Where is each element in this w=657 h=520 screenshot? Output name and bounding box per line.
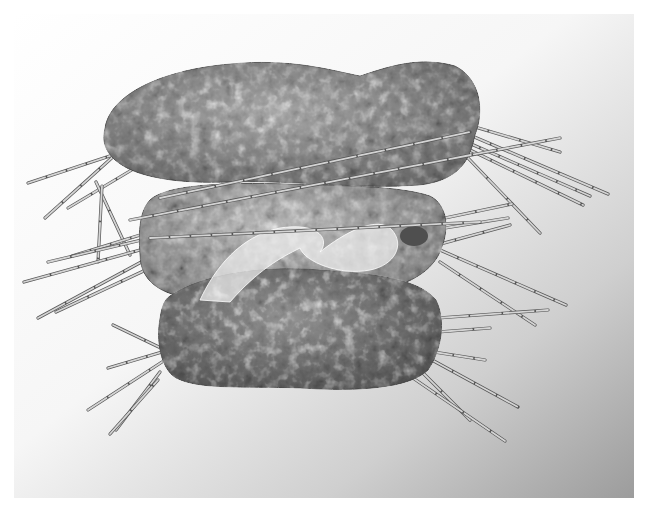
photograph (0, 0, 657, 520)
fabric-nodule (400, 226, 428, 246)
top-pillow (104, 62, 480, 187)
bottom-pillow (159, 269, 442, 390)
